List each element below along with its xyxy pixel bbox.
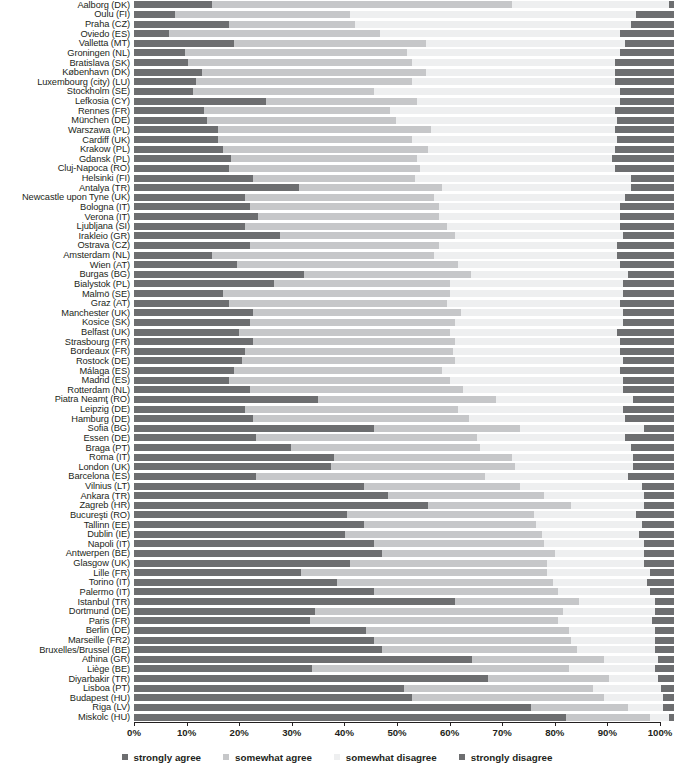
bar-segment-strongly-disagree xyxy=(628,271,674,278)
chart-row: Madrid (ES) xyxy=(0,375,674,385)
legend-item-somewhat-agree[interactable]: somewhat agree xyxy=(223,752,312,763)
bar-segment-somewhat-agree xyxy=(304,271,471,278)
chart-row: Berlin (DE) xyxy=(0,626,674,636)
bar-segment-somewhat-agree xyxy=(366,627,569,634)
x-axis-inner: 0%10%20%30%40%50%60%70%80%90%100% xyxy=(134,722,660,742)
bar-track xyxy=(134,338,674,345)
bar-segment-somewhat-disagree xyxy=(571,502,644,509)
bar-segment-somewhat-disagree xyxy=(434,194,626,201)
category-label: Essen (DE) xyxy=(0,433,134,443)
chart-row: London (UK) xyxy=(0,462,674,472)
bar-segment-somewhat-agree xyxy=(250,319,455,326)
bar-segment-strongly-agree xyxy=(134,252,212,259)
x-tick-label: 0% xyxy=(127,727,141,738)
bar-segment-strongly-disagree xyxy=(633,463,674,470)
bar-segment-somewhat-agree xyxy=(196,78,412,85)
bar-segment-strongly-disagree xyxy=(644,560,674,567)
chart-row: Kosice (SK) xyxy=(0,318,674,328)
chart-row: Lisboa (PT) xyxy=(0,683,674,693)
chart-row: Braga (PT) xyxy=(0,443,674,453)
bar-segment-strongly-agree xyxy=(134,454,334,461)
category-label: Rotterdam (NL) xyxy=(0,385,134,395)
bar-track xyxy=(134,569,674,576)
chart-row: Diyarbakir (TR) xyxy=(0,674,674,684)
bar-segment-somewhat-agree xyxy=(245,406,458,413)
bar-segment-somewhat-disagree xyxy=(555,550,644,557)
bar-segment-somewhat-disagree xyxy=(450,280,623,287)
bar-segment-strongly-agree xyxy=(134,569,301,576)
bar-segment-somewhat-agree xyxy=(229,21,356,28)
bar-segment-somewhat-disagree xyxy=(463,386,622,393)
bar-track xyxy=(134,1,674,8)
bar-segment-strongly-disagree xyxy=(617,252,674,259)
bar-segment-strongly-disagree xyxy=(615,165,674,172)
chart-row: Riga (LV) xyxy=(0,703,674,713)
category-label: Braga (PT) xyxy=(0,443,134,453)
legend-item-strongly-agree[interactable]: strongly agree xyxy=(122,752,202,763)
bar-segment-somewhat-disagree xyxy=(439,213,620,220)
bar-segment-somewhat-disagree xyxy=(520,425,644,432)
bar-segment-strongly-agree xyxy=(134,492,388,499)
chart-row: Torino (IT) xyxy=(0,578,674,588)
chart-row: Belfast (UK) xyxy=(0,327,674,337)
bar-segment-strongly-agree xyxy=(134,194,245,201)
bar-segment-strongly-disagree xyxy=(623,319,674,326)
x-tick xyxy=(344,722,345,726)
chart-row: Irakleio (GR) xyxy=(0,231,674,241)
bar-segment-somewhat-agree xyxy=(455,598,579,605)
bar-segment-somewhat-agree xyxy=(218,136,412,143)
bar-segment-strongly-disagree xyxy=(620,88,674,95)
bar-track xyxy=(134,637,674,644)
chart-row: Oulu (FI) xyxy=(0,10,674,20)
bar-segment-somewhat-disagree xyxy=(412,78,615,85)
bar-segment-somewhat-disagree xyxy=(534,511,637,518)
x-tick-label: 40% xyxy=(335,727,354,738)
chart-row: Ankara (TR) xyxy=(0,491,674,501)
bar-segment-strongly-agree xyxy=(134,309,253,316)
bar-segment-somewhat-agree xyxy=(258,213,439,220)
bar-segment-somewhat-agree xyxy=(245,348,453,355)
chart-row: Luxembourg (city) (LU) xyxy=(0,77,674,87)
bar-segment-strongly-disagree xyxy=(669,1,674,8)
bar-segment-somewhat-disagree xyxy=(609,675,658,682)
bar-segment-somewhat-disagree xyxy=(426,40,626,47)
bar-segment-strongly-agree xyxy=(134,203,250,210)
legend-item-somewhat-disagree[interactable]: somewhat disagree xyxy=(334,752,437,763)
bar-segment-strongly-disagree xyxy=(617,117,674,124)
bar-segment-somewhat-disagree xyxy=(426,69,615,76)
category-label: Bialystok (PL) xyxy=(0,279,134,289)
bar-segment-strongly-disagree xyxy=(615,146,674,153)
bar-segment-strongly-agree xyxy=(134,617,310,624)
legend-swatch-icon xyxy=(122,754,128,760)
bar-segment-strongly-disagree xyxy=(644,550,674,557)
chart-row: Antwerpen (BE) xyxy=(0,549,674,559)
bar-segment-strongly-disagree xyxy=(655,637,674,644)
category-label: Liège (BE) xyxy=(0,664,134,674)
category-label: Groningen (NL) xyxy=(0,48,134,58)
bar-segment-somewhat-agree xyxy=(566,714,650,721)
chart-row: Cluj-Napoca (RO) xyxy=(0,164,674,174)
bar-track xyxy=(134,280,674,287)
bar-segment-strongly-agree xyxy=(134,30,169,37)
bar-segment-somewhat-agree xyxy=(347,511,533,518)
bar-segment-somewhat-disagree xyxy=(569,627,655,634)
bar-track xyxy=(134,242,674,249)
bar-segment-strongly-agree xyxy=(134,473,256,480)
x-tick xyxy=(660,722,661,726)
bar-segment-somewhat-disagree xyxy=(544,492,644,499)
bar-segment-somewhat-agree xyxy=(312,665,569,672)
bar-track xyxy=(134,300,674,307)
bar-track xyxy=(134,560,674,567)
bar-track xyxy=(134,78,674,85)
x-tick-label: 50% xyxy=(387,727,406,738)
bar-segment-strongly-disagree xyxy=(644,492,674,499)
bar-segment-somewhat-disagree xyxy=(407,49,620,56)
bar-segment-strongly-disagree xyxy=(623,406,674,413)
chart-row: Miskolc (HU) xyxy=(0,712,674,722)
x-tick-label: 30% xyxy=(282,727,301,738)
bar-segment-strongly-disagree xyxy=(669,714,674,721)
bar-segment-somewhat-disagree xyxy=(558,617,653,624)
category-label: Gdansk (PL) xyxy=(0,154,134,164)
chart-row: Glasgow (UK) xyxy=(0,558,674,568)
legend-item-strongly-disagree[interactable]: strongly disagree xyxy=(459,752,553,763)
